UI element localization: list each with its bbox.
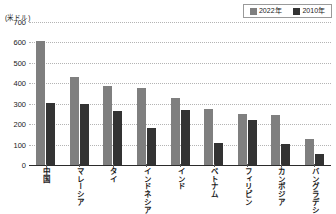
x-axis-labels: 中国マレーシアタイインドネシアインドベトナムフィリピンカンボジアバングラデシュ (29, 167, 331, 214)
bar-2022[interactable] (238, 114, 247, 165)
bar-2010[interactable] (315, 154, 324, 165)
x-axis-label-cell: フィリピン (230, 167, 264, 214)
bar-2010[interactable] (46, 103, 55, 165)
x-axis-label-cell: ベトナム (197, 167, 231, 214)
bar-group (230, 22, 264, 165)
x-axis-label-cell: カンボジア (264, 167, 298, 214)
x-axis-label-text: マレーシア (75, 167, 83, 206)
x-axis-label-text: カンボジア (277, 167, 285, 206)
x-axis-label-text: タイ (109, 167, 117, 182)
legend-swatch-2022-icon (250, 8, 257, 15)
y-axis-tick-label: 0 (22, 161, 26, 170)
x-axis-label-cell: タイ (96, 167, 130, 214)
bar-2022[interactable] (137, 88, 146, 165)
x-axis-tick (46, 164, 47, 167)
y-axis-tick-label: 600 (13, 38, 26, 47)
x-axis-label-cell: バングラデシュ (298, 167, 332, 214)
bar-group (130, 22, 164, 165)
y-axis-tick-label: 400 (13, 79, 26, 88)
x-axis-label-cell: マレーシア (63, 167, 97, 214)
x-axis-tick (79, 164, 80, 167)
bar-groups (29, 22, 331, 165)
legend-entry-2022: 2022年 (250, 7, 282, 15)
bar-group (163, 22, 197, 165)
bar-group (96, 22, 130, 165)
bar-group (63, 22, 97, 165)
bar-group (29, 22, 63, 165)
x-axis-label-cell: インドネシア (130, 167, 164, 214)
y-axis-tick-label: 100 (13, 140, 26, 149)
x-axis-tick (314, 164, 315, 167)
x-axis-label-text: 中国 (42, 167, 50, 182)
x-axis-label-text: ベトナム (210, 167, 218, 198)
x-axis-tick (281, 164, 282, 167)
x-axis-label-text: インドネシア (142, 167, 150, 213)
bar-2022[interactable] (36, 41, 45, 165)
bar-2010[interactable] (113, 111, 122, 165)
x-axis-tick (247, 164, 248, 167)
chart-legend: 2022年 2010年 (243, 4, 332, 18)
bar-2022[interactable] (70, 77, 79, 165)
legend-label-2022: 2022年 (259, 7, 282, 15)
x-axis-label-text: フィリピン (243, 167, 251, 206)
bar-group (264, 22, 298, 165)
x-axis-tick (146, 164, 147, 167)
bar-2010[interactable] (281, 144, 290, 165)
x-axis-label-cell: 中国 (29, 167, 63, 214)
y-axis-tick-label: 700 (13, 18, 26, 27)
bar-2010[interactable] (147, 128, 156, 165)
bar-2010[interactable] (248, 120, 257, 165)
bar-2022[interactable] (271, 115, 280, 165)
plot-area: 7006005004003002001000 (29, 22, 331, 165)
chart-page: (米ドル) 2022年 2010年 7006005004003002001000… (0, 0, 336, 214)
x-axis-label-cell: インド (163, 167, 197, 214)
y-axis-tick-label: 300 (13, 99, 26, 108)
bar-2010[interactable] (181, 110, 190, 165)
legend-entry-2010: 2010年 (293, 7, 325, 15)
bar-group (197, 22, 231, 165)
bar-2010[interactable] (80, 104, 89, 165)
legend-swatch-2010-icon (293, 8, 300, 15)
x-axis-tick (214, 164, 215, 167)
bar-group (298, 22, 332, 165)
y-axis-tick-label: 200 (13, 120, 26, 129)
bar-2022[interactable] (103, 86, 112, 165)
x-axis-tick (180, 164, 181, 167)
x-axis-label-text: バングラデシュ (310, 167, 318, 214)
bar-2022[interactable] (204, 109, 213, 165)
bar-2022[interactable] (171, 98, 180, 165)
x-axis-label-text: インド (176, 167, 184, 190)
y-axis-tick-label: 500 (13, 58, 26, 67)
bar-2022[interactable] (305, 139, 314, 165)
legend-label-2010: 2010年 (302, 7, 325, 15)
bar-2010[interactable] (214, 143, 223, 165)
x-axis-tick (113, 164, 114, 167)
